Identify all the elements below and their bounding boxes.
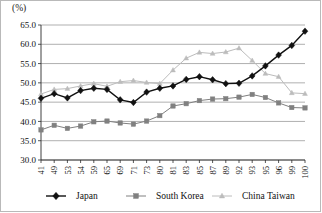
x-tick-label: 59 <box>89 166 99 175</box>
data-point-triangle <box>131 78 136 82</box>
data-point-square <box>134 194 139 199</box>
x-tick-label: 83 <box>181 166 191 175</box>
legend-item-japan[interactable]: Japan <box>46 191 98 201</box>
data-point-diamond <box>78 87 84 94</box>
x-tick-label: 99 <box>287 166 297 175</box>
data-point-diamond <box>53 192 59 199</box>
data-point-square <box>158 113 162 117</box>
data-point-square <box>250 92 254 96</box>
legend-item-china-taiwan[interactable]: China Taiwan <box>212 191 295 201</box>
data-point-square <box>263 95 267 99</box>
x-tick-label: 95 <box>261 166 271 175</box>
data-point-square <box>118 121 122 125</box>
data-point-square <box>224 96 228 100</box>
y-axis-unit-label: (%) <box>12 3 26 13</box>
data-point-diamond <box>91 85 97 92</box>
data-point-diamond <box>197 73 203 80</box>
x-tick-label: 100 <box>300 166 310 179</box>
x-tick-label: 87 <box>208 166 218 175</box>
legend-label: South Korea <box>156 191 205 201</box>
y-tick-label: 55.0 <box>20 59 36 69</box>
x-tick-label: 49 <box>49 166 59 175</box>
y-tick-label: 40.0 <box>20 117 36 127</box>
x-tick-label: 73 <box>142 166 152 175</box>
y-axis-tick-labels: 30.035.040.045.050.055.060.065.0 <box>20 20 41 165</box>
x-tick-label: 93 <box>247 166 257 175</box>
x-axis-tick-labels: 4149535459656971738081838587899293959699… <box>36 160 310 179</box>
data-point-square <box>184 101 188 105</box>
x-tick-label: 65 <box>102 166 112 175</box>
data-point-diamond <box>210 77 216 84</box>
y-tick-label: 65.0 <box>20 20 36 30</box>
data-point-square <box>131 122 135 126</box>
data-point-diamond <box>65 95 71 102</box>
data-point-square <box>237 95 241 99</box>
x-tick-label: 85 <box>195 166 205 175</box>
x-tick-label: 96 <box>274 166 284 175</box>
data-point-square <box>52 123 56 127</box>
data-point-square <box>171 104 175 108</box>
y-tick-label: 50.0 <box>20 78 36 88</box>
series-japan <box>38 28 308 106</box>
data-point-diamond <box>170 83 176 90</box>
data-point-diamond <box>157 85 163 92</box>
data-point-square <box>210 97 214 101</box>
data-point-square <box>39 128 43 132</box>
x-tick-label: 41 <box>36 166 46 175</box>
x-tick-label: 53 <box>63 166 73 175</box>
legend-label: Japan <box>76 191 98 201</box>
data-point-diamond <box>223 80 229 87</box>
data-point-square <box>303 106 307 110</box>
data-series-group <box>38 28 308 132</box>
y-tick-label: 45.0 <box>20 97 36 107</box>
legend-label: China Taiwan <box>242 191 295 201</box>
x-tick-label: 54 <box>76 165 86 174</box>
x-tick-label: 81 <box>168 166 178 175</box>
x-tick-label: 69 <box>115 166 125 175</box>
data-point-square <box>78 124 82 128</box>
x-tick-label: 80 <box>155 166 165 175</box>
data-point-square <box>92 120 96 124</box>
data-point-square <box>197 98 201 102</box>
x-tick-label: 71 <box>129 166 139 175</box>
data-point-diamond <box>236 80 242 87</box>
y-tick-label: 60.0 <box>20 39 36 49</box>
data-point-square <box>276 101 280 105</box>
y-tick-label: 30.0 <box>20 155 36 165</box>
y-tick-label: 35.0 <box>20 136 36 146</box>
x-tick-label: 89 <box>221 166 231 175</box>
data-point-diamond <box>183 76 189 83</box>
data-point-square <box>290 105 294 109</box>
chart-container: (%) 30.035.040.045.050.055.060.065.0 414… <box>0 0 322 213</box>
data-point-triangle <box>197 50 202 54</box>
data-point-square <box>65 126 69 130</box>
data-point-square <box>105 119 109 123</box>
legend-item-south-korea[interactable]: South Korea <box>126 191 205 201</box>
series-south-korea <box>39 92 307 132</box>
line-chart-svg: 30.035.040.045.050.055.060.065.0 4149535… <box>0 0 322 213</box>
legend-group: JapanSouth KoreaChina Taiwan <box>46 191 295 201</box>
data-point-triangle <box>237 46 242 50</box>
data-point-square <box>144 119 148 123</box>
x-tick-label: 92 <box>234 166 244 175</box>
